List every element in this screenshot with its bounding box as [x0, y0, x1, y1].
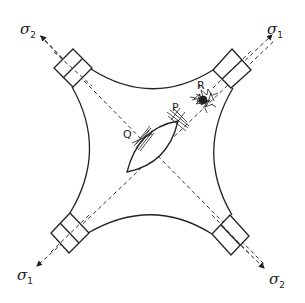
- point-r-label: R: [197, 80, 205, 91]
- sigma2-label-bottom-right: σ2: [269, 272, 285, 290]
- diagram-drawing: [0, 0, 305, 303]
- sigma1-label-top-right: σ1: [267, 22, 283, 40]
- point-q-label: Q: [123, 129, 132, 140]
- point-p-label: P: [172, 102, 179, 113]
- sigma1-label-bottom-left: σ1: [17, 268, 33, 286]
- stress-diagram: σ2 σ1 σ1 σ2 Q P R: [0, 0, 305, 303]
- central-crack: [127, 121, 178, 172]
- sigma2-label-top-left: σ2: [20, 22, 36, 40]
